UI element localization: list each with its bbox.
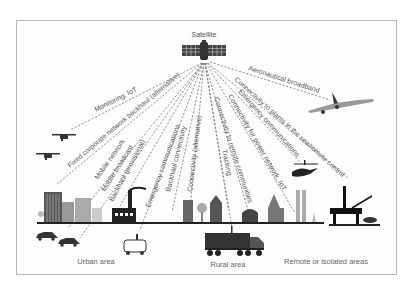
satellite-diagram: Satellite Monitoring, IoT Fixed corp [0, 0, 413, 291]
drone-icon [36, 134, 76, 160]
label-remote-communities: Connectivity to remote communities [212, 96, 254, 204]
urban-buildings-icon [38, 192, 102, 224]
area-label-remote: Remote or isolated areas [284, 257, 368, 266]
car-icon [36, 232, 80, 247]
truck-icon [205, 226, 264, 256]
airplane-icon [308, 92, 374, 114]
satellite-icon [182, 40, 226, 60]
oil-rig-icon [330, 186, 377, 224]
label-aeronautical: Aeronautical broadband [248, 64, 321, 94]
link-labels: Monitoring, IoT Fixed corporate network … [66, 64, 346, 208]
sea-line [329, 224, 380, 226]
satellite-label: Satellite [192, 31, 217, 38]
helicopter-icon [292, 160, 318, 177]
ground-line [37, 222, 324, 224]
area-label-urban: Urban area [77, 257, 115, 266]
ambulance-icon [124, 234, 146, 255]
area-label-rural: Rural area [210, 260, 246, 269]
label-connectivity-alternative: Connectivity (alternative) [186, 115, 203, 192]
